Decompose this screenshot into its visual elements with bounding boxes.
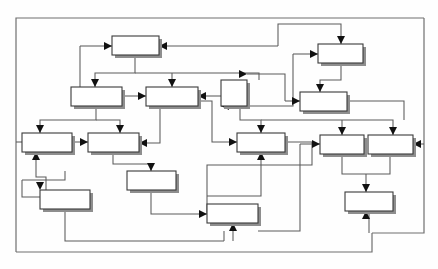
arrowhead-into-n6-left (292, 97, 300, 105)
arrowhead-into-n10-top (338, 127, 346, 135)
arrowhead-into-n10-left (312, 140, 320, 148)
arrowhead-into-n1-left (104, 42, 112, 50)
node-n3[interactable] (71, 87, 125, 109)
node-n10[interactable] (320, 135, 367, 157)
edge-n3-to-n7 (40, 106, 96, 133)
arrowhead-into-n8-left (80, 138, 88, 146)
arrowhead-into-n9-top (257, 125, 265, 133)
arrowhead-into-n6-top (316, 84, 324, 92)
arrowhead-into-n2-top (337, 36, 345, 44)
node-n13[interactable] (40, 190, 93, 212)
node-n1[interactable] (112, 36, 162, 58)
edge-n5-to-n6-riser (247, 74, 285, 101)
edge-n5-to-n9 (240, 106, 261, 133)
arrowhead-into-n5-right (239, 70, 247, 78)
node-n14[interactable] (345, 192, 396, 214)
arrowhead-into-n3-top (91, 79, 99, 87)
arrowhead-into-n14-top (362, 184, 370, 192)
edge-below-to-n9 (207, 152, 261, 196)
arrowhead-into-n15-left (199, 210, 207, 218)
arrowhead-into-n7-top (36, 125, 44, 133)
node-n8[interactable] (88, 133, 142, 155)
node-n9[interactable] (237, 133, 288, 155)
node-n2[interactable] (318, 44, 366, 66)
node-n11[interactable] (368, 135, 416, 157)
node-n5[interactable] (221, 80, 250, 109)
edge-n6-to-rail (347, 101, 404, 120)
edge-n3-to-n8 (96, 120, 120, 133)
arrowhead-into-n9-left (229, 138, 237, 146)
edge-n2-top-feed (278, 24, 341, 46)
edge-n1-to-n3 (95, 55, 135, 87)
edge-n2-to-n6 (320, 63, 341, 92)
arrowhead-into-n13-top (36, 182, 44, 190)
node-n12[interactable] (127, 171, 179, 193)
edge-n12-to-n15 (151, 190, 207, 214)
block-diagram (0, 0, 438, 269)
arrowhead-into-n4-left (138, 92, 146, 100)
node-n6[interactable] (300, 92, 350, 114)
node-n4[interactable] (146, 87, 201, 109)
edge-n15-to-n10-riser (258, 144, 300, 231)
node-layer (22, 36, 416, 226)
node-n7[interactable] (22, 133, 75, 155)
arrowhead-into-n11-top (389, 127, 397, 135)
arrowhead-into-n4-top (168, 79, 176, 87)
diagram-canvas (0, 0, 438, 269)
arrowhead-into-n2-left (310, 50, 318, 58)
arrowhead-into-n12-top (147, 163, 155, 171)
node-n15[interactable] (207, 204, 261, 226)
arrowhead-into-n8-top (116, 125, 124, 133)
edge-n12-left-feed-top (22, 171, 65, 180)
edge-n4-to-n8 (139, 106, 160, 143)
